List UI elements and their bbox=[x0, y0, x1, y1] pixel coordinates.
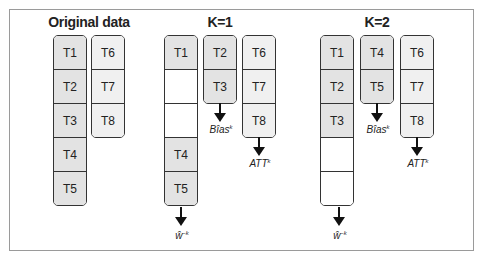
cell-t8: T8 bbox=[401, 103, 433, 137]
original-control-column: T6 T7 T8 bbox=[91, 35, 125, 138]
cell-t4: T4 bbox=[165, 137, 197, 171]
w-hat-label: ŵ−k bbox=[333, 230, 347, 241]
cell-t8: T8 bbox=[92, 103, 124, 137]
cell-t7: T7 bbox=[92, 69, 124, 103]
w-hat-label: ŵ−k bbox=[175, 230, 189, 241]
cell-t7: T7 bbox=[401, 69, 433, 103]
k1-control-column: T6 T7 T8 bbox=[242, 35, 276, 138]
k2-control-column: T6 T7 T8 bbox=[400, 35, 434, 138]
cell-t1: T1 bbox=[54, 36, 86, 69]
k2-train-column: T1 T2 T3 bbox=[320, 35, 354, 206]
cell-t6: T6 bbox=[92, 36, 124, 69]
down-arrow-icon bbox=[175, 207, 187, 226]
original-treated-column: T1 T2 T3 T4 T5 bbox=[53, 35, 87, 206]
cell-empty bbox=[321, 171, 353, 205]
cell-t1: T1 bbox=[321, 36, 353, 69]
cell-t6: T6 bbox=[243, 36, 275, 69]
original-data-title: Original data bbox=[48, 14, 130, 30]
down-arrow-icon bbox=[214, 103, 226, 122]
cell-t4: T4 bbox=[361, 36, 393, 69]
cell-t5: T5 bbox=[361, 69, 393, 103]
cell-t4: T4 bbox=[54, 137, 86, 171]
cell-t2: T2 bbox=[54, 69, 86, 103]
att-label: ATTk bbox=[407, 158, 428, 169]
down-arrow-icon bbox=[253, 137, 265, 156]
k2-title: K=2 bbox=[364, 14, 389, 30]
cell-t3: T3 bbox=[54, 103, 86, 137]
bias-hat-label: Bîask bbox=[366, 124, 389, 135]
cell-empty bbox=[321, 137, 353, 171]
cell-t7: T7 bbox=[243, 69, 275, 103]
cell-t6: T6 bbox=[401, 36, 433, 69]
cell-t8: T8 bbox=[243, 103, 275, 137]
att-label: ATTk bbox=[249, 158, 270, 169]
cell-t5: T5 bbox=[54, 171, 86, 205]
cell-empty bbox=[165, 69, 197, 103]
cell-t3: T3 bbox=[204, 69, 236, 103]
cell-t2: T2 bbox=[204, 36, 236, 69]
k1-title: K=1 bbox=[207, 14, 232, 30]
cell-t5: T5 bbox=[165, 171, 197, 205]
down-arrow-icon bbox=[333, 207, 345, 226]
down-arrow-icon bbox=[371, 103, 383, 122]
k1-train-column: T1 T4 T5 bbox=[164, 35, 198, 206]
bias-hat-label: Bîask bbox=[209, 124, 232, 135]
cell-empty bbox=[165, 103, 197, 137]
cell-t1: T1 bbox=[165, 36, 197, 69]
down-arrow-icon bbox=[411, 137, 423, 156]
k1-holdout-column: T2 T3 bbox=[203, 35, 237, 104]
cell-t2: T2 bbox=[321, 69, 353, 103]
k2-holdout-column: T4 T5 bbox=[360, 35, 394, 104]
cell-t3: T3 bbox=[321, 103, 353, 137]
